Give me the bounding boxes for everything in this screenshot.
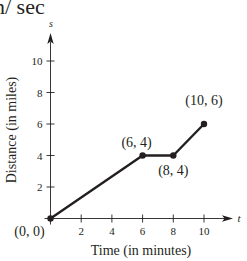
distance-time-chart: n/ sec Distance (in miles) s t Time (in …: [0, 0, 247, 261]
y-tick-label: 6: [37, 118, 43, 130]
y-tick-label: 8: [37, 87, 43, 99]
x-tick-label: 8: [171, 225, 177, 237]
x-tick-label: 6: [140, 225, 146, 237]
x-axis-variable: t: [237, 212, 241, 224]
point-label: (10, 6): [185, 93, 223, 109]
header-fragment: n/ sec: [0, 0, 45, 19]
x-tick-label: 2: [78, 225, 84, 237]
data-point: [170, 152, 176, 158]
data-point: [139, 152, 145, 158]
point-annotations: (0, 0)(6, 4)(8, 4)(10, 6): [14, 93, 223, 240]
point-label: (8, 4): [158, 163, 189, 179]
data-point: [201, 121, 207, 127]
y-tick-label: 10: [32, 55, 44, 67]
x-tick-label: 4: [109, 225, 115, 237]
data-point: [47, 215, 53, 221]
point-label: (0, 0): [14, 224, 45, 240]
x-axis-label: Time (in minutes): [91, 243, 192, 259]
y-axis-label: Distance (in miles): [4, 76, 20, 183]
y-tick-label: 4: [37, 150, 43, 162]
x-tick-label: 10: [199, 225, 211, 237]
y-tick-label: 2: [37, 181, 43, 193]
point-label: (6, 4): [121, 135, 152, 151]
y-axis-variable: s: [49, 18, 53, 29]
axes: [45, 33, 234, 225]
